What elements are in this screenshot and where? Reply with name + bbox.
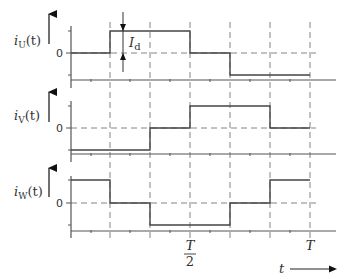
zero-label-v: 0	[56, 122, 63, 135]
ylabel-iu: iU(t)	[14, 33, 41, 50]
id-amplitude-annotation: Id	[120, 12, 141, 72]
sector-grid-lines	[110, 22, 310, 248]
x-axis-label: t	[279, 261, 285, 276]
plot-iu: iU(t) 0 Id	[14, 12, 336, 88]
id-label: Id	[128, 35, 141, 52]
zero-label-u: 0	[56, 47, 63, 60]
tick-label-half-period-denominator: 2	[186, 254, 194, 269]
time-axis-label: t	[279, 261, 337, 276]
current-waveform-diagram: iU(t) 0 Id iV(t) 0	[0, 0, 352, 279]
arrow-down-icon	[120, 24, 126, 31]
plot-iw: iW(t) 0	[14, 168, 336, 238]
tick-label-period: T	[306, 238, 316, 253]
zero-label-w: 0	[56, 197, 63, 210]
ylabel-iv: iV(t)	[14, 108, 40, 125]
arrow-up-icon	[120, 53, 126, 60]
diagram-canvas: iU(t) 0 Id iV(t) 0	[0, 0, 352, 279]
ylabel-iw: iW(t)	[14, 184, 43, 201]
plot-iv: iV(t) 0	[14, 92, 336, 162]
waveform-iw	[71, 180, 310, 225]
x-tick-labels: T 2 T	[184, 238, 316, 269]
arrow-right-icon	[329, 266, 337, 273]
tick-label-half-period-numerator: T	[186, 238, 196, 253]
